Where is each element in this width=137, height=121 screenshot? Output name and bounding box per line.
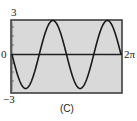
y-zero-label: 0	[1, 49, 7, 60]
x-max-label: 2π	[124, 49, 135, 60]
y-max-label: 3	[11, 7, 17, 18]
y-min-label: −3	[3, 94, 15, 105]
chart-caption: (C)	[60, 104, 74, 114]
